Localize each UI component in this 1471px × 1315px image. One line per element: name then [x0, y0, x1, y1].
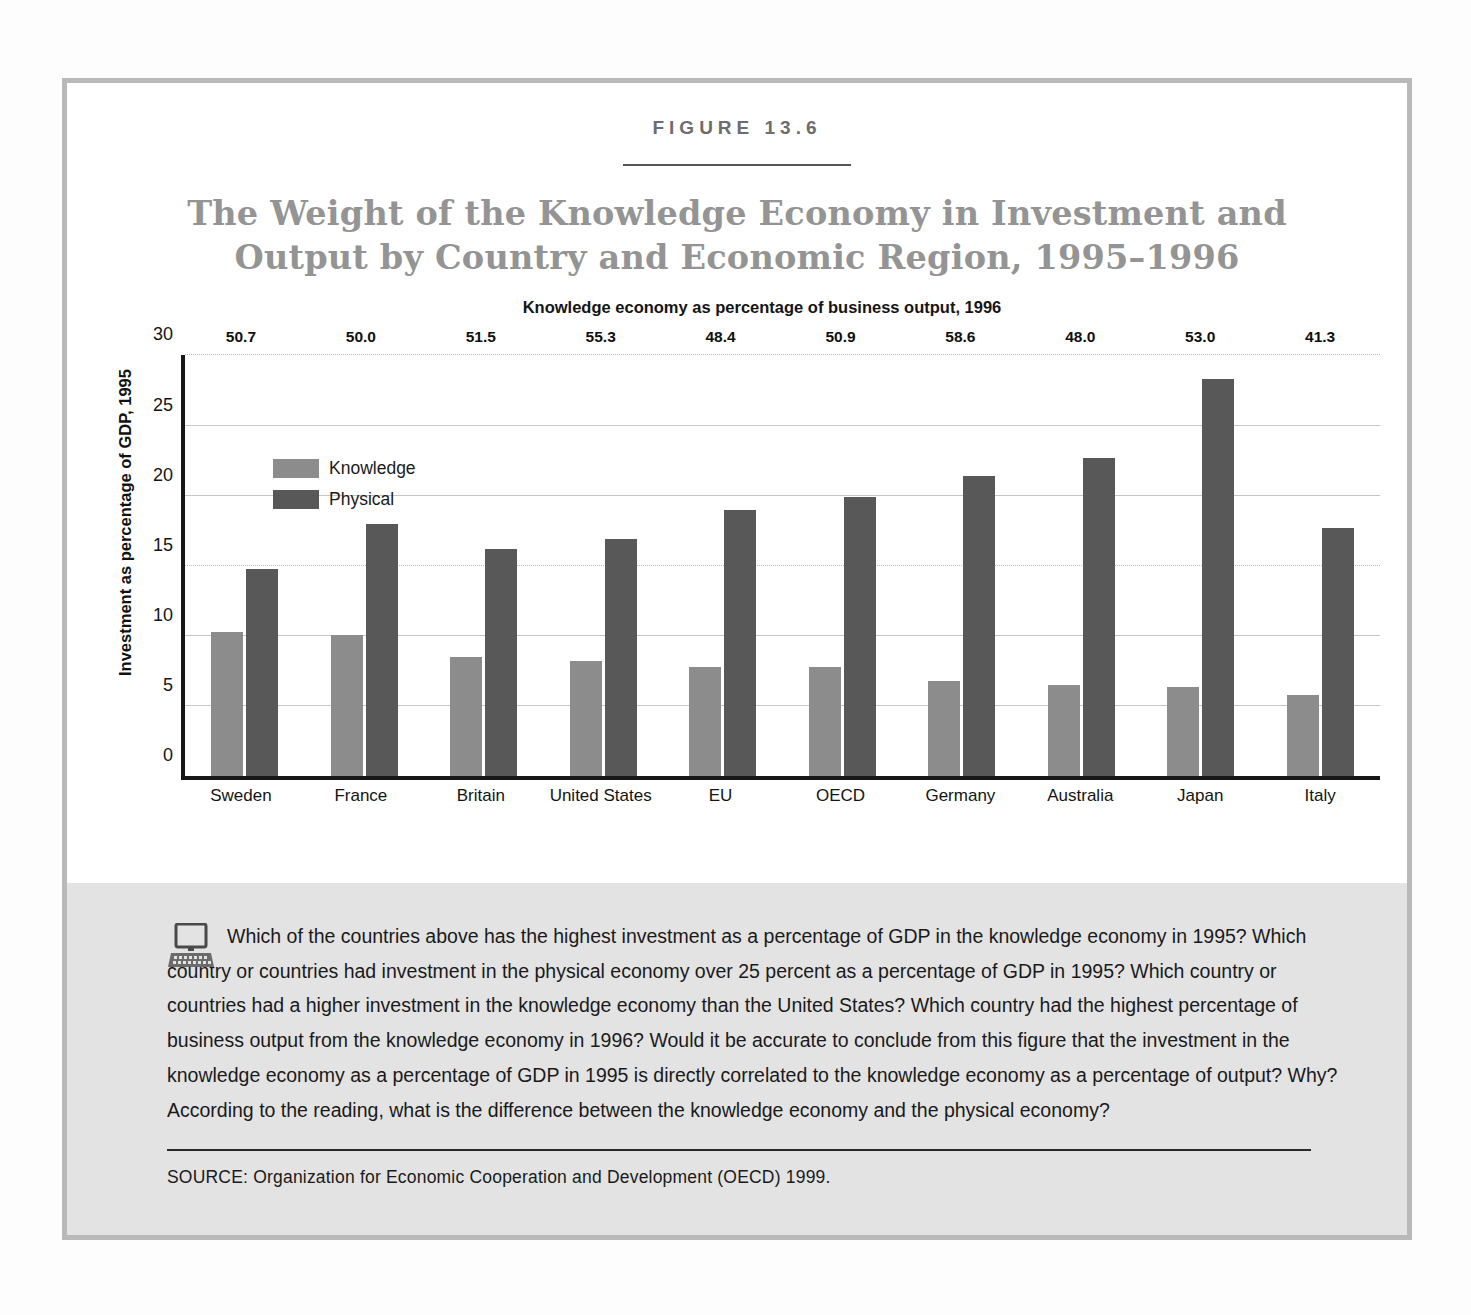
bar-physical [844, 497, 876, 776]
top-axis-value: 55.3 [541, 328, 661, 350]
x-axis-label: Italy [1260, 786, 1380, 806]
caption-panel: Which of the countries above has the hig… [67, 883, 1407, 1235]
figure-title-line-1: The Weight of the Knowledge Economy in I… [127, 192, 1347, 236]
source-divider-rule [167, 1149, 1311, 1151]
bar-physical [605, 539, 637, 776]
top-axis-value: 53.0 [1140, 328, 1260, 350]
x-axis-label: United States [541, 786, 661, 806]
figure-frame: FIGURE 13.6 The Weight of the Knowledge … [62, 78, 1412, 1240]
y-axis-tick-label: 25 [153, 394, 173, 415]
bar-knowledge [450, 657, 482, 776]
computer-icon [167, 923, 215, 969]
x-axis-label: EU [661, 786, 781, 806]
bar-knowledge [1287, 695, 1319, 776]
bar-groups [185, 355, 1380, 776]
legend-swatch-physical [273, 490, 319, 509]
bar-knowledge [928, 681, 960, 776]
legend-item-knowledge: Knowledge [273, 455, 416, 481]
bar-physical [1322, 528, 1354, 776]
top-axis-value: 41.3 [1260, 328, 1380, 350]
bar-knowledge [689, 667, 721, 776]
top-axis-value: 48.4 [661, 328, 781, 350]
bar-physical [485, 549, 517, 776]
plot-area: 051015202530 Knowledge Physical [181, 355, 1380, 780]
bar-group [1261, 355, 1381, 776]
source-line: SOURCE: Organization for Economic Cooper… [167, 1167, 1341, 1188]
x-axis-label: France [301, 786, 421, 806]
top-axis-value: 50.0 [301, 328, 421, 350]
y-axis-tick-label: 30 [153, 324, 173, 345]
figure-number: FIGURE 13.6 [67, 117, 1407, 139]
top-axis-value-row: 50.750.051.555.348.450.958.648.053.041.3 [181, 328, 1380, 350]
top-axis-title: Knowledge economy as percentage of busin… [67, 298, 1407, 317]
bar-group [185, 355, 305, 776]
top-axis-value: 51.5 [421, 328, 541, 350]
x-axis-label: Germany [900, 786, 1020, 806]
figure-title: The Weight of the Knowledge Economy in I… [67, 192, 1407, 280]
y-axis-tick-label: 5 [163, 675, 173, 696]
caption-text: Which of the countries above has the hig… [167, 919, 1341, 1127]
bar-physical [1202, 379, 1234, 776]
bar-group [902, 355, 1022, 776]
bar-group [1022, 355, 1142, 776]
chart-area: Knowledge economy as percentage of busin… [67, 298, 1407, 803]
figure-divider-rule [623, 164, 851, 166]
y-axis-tick-label: 15 [153, 534, 173, 555]
legend-label-knowledge: Knowledge [329, 458, 416, 479]
bar-knowledge [1048, 685, 1080, 776]
bar-knowledge [570, 661, 602, 776]
x-axis-labels: SwedenFranceBritainUnited StatesEUOECDGe… [181, 786, 1380, 806]
top-axis-value: 50.7 [181, 328, 301, 350]
legend-item-physical: Physical [273, 486, 416, 512]
bar-physical [1083, 458, 1115, 777]
bar-knowledge [331, 635, 363, 777]
bar-physical [724, 510, 756, 777]
top-axis-value: 50.9 [781, 328, 901, 350]
top-axis-value: 48.0 [1020, 328, 1140, 350]
bar-group [305, 355, 425, 776]
bar-group [544, 355, 664, 776]
bar-physical [366, 524, 398, 777]
bar-group [663, 355, 783, 776]
x-axis-label: Japan [1140, 786, 1260, 806]
legend-label-physical: Physical [329, 489, 394, 510]
x-axis-label: Australia [1020, 786, 1140, 806]
x-axis-label: Britain [421, 786, 541, 806]
top-axis-value: 58.6 [900, 328, 1020, 350]
legend-swatch-knowledge [273, 459, 319, 478]
y-axis-title: Investment as percentage of GDP, 1995 [116, 313, 135, 733]
y-axis-tick-label: 0 [163, 745, 173, 766]
bar-group [1141, 355, 1261, 776]
y-axis-tick-label: 20 [153, 464, 173, 485]
bar-physical [963, 476, 995, 776]
bar-physical [246, 569, 278, 777]
chart-legend: Knowledge Physical [273, 455, 416, 517]
x-axis-label: Sweden [181, 786, 301, 806]
bar-knowledge [211, 632, 243, 777]
figure-title-line-2: Output by Country and Economic Region, 1… [127, 236, 1347, 280]
y-axis-tick-label: 10 [153, 605, 173, 626]
bar-knowledge [809, 667, 841, 776]
bar-knowledge [1167, 687, 1199, 777]
bar-group [783, 355, 903, 776]
bar-group [424, 355, 544, 776]
x-axis-label: OECD [781, 786, 901, 806]
